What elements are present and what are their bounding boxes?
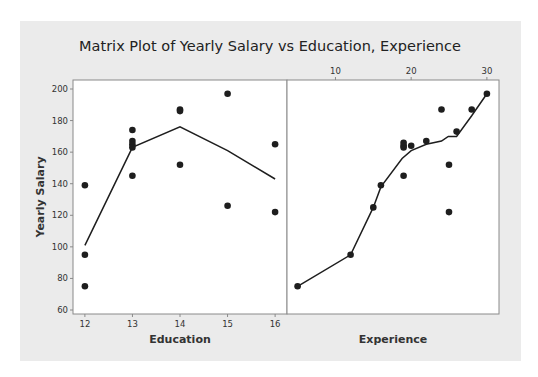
x-tick-label: 14 — [175, 319, 186, 329]
data-point — [82, 182, 89, 189]
data-point — [408, 143, 415, 150]
x-tick-label: 15 — [222, 319, 233, 329]
data-point — [129, 173, 136, 180]
data-point — [224, 203, 231, 210]
data-point — [177, 162, 184, 169]
chart-title: Matrix Plot of Yearly Salary vs Educatio… — [79, 38, 461, 54]
y-tick-label: 140 — [52, 179, 68, 189]
data-point — [446, 209, 453, 216]
x-tick-label: 30 — [481, 66, 492, 76]
y-tick-label: 80 — [57, 273, 68, 283]
plot-area-education — [73, 80, 287, 314]
y-axis-label: Yearly Salary — [34, 156, 47, 238]
x-axis-label-experience: Experience — [359, 333, 427, 346]
x-tick-label: 16 — [270, 319, 281, 329]
data-point — [468, 106, 475, 113]
data-point — [294, 283, 301, 290]
x-tick-label: 12 — [79, 319, 90, 329]
data-point — [423, 138, 430, 145]
data-point — [438, 106, 445, 113]
x-tick-label: 20 — [406, 66, 417, 76]
x-tick-label: 13 — [127, 319, 138, 329]
data-point — [446, 162, 453, 169]
data-point — [453, 128, 460, 135]
data-point — [177, 108, 184, 115]
x-tick-label: 10 — [330, 66, 341, 76]
data-point — [82, 252, 89, 259]
data-point — [82, 283, 89, 290]
data-point — [484, 90, 491, 97]
y-tick-label: 120 — [52, 210, 68, 220]
y-tick-label: 200 — [52, 84, 68, 94]
data-point — [370, 204, 377, 211]
data-point — [347, 252, 354, 259]
data-point — [272, 141, 279, 148]
panel-experience: 102030 Experience — [287, 66, 499, 346]
y-tick-label: 160 — [52, 147, 68, 157]
y-tick-label: 100 — [52, 242, 68, 252]
x-axis-label-education: Education — [149, 333, 211, 346]
data-point — [129, 144, 136, 151]
matrix-plot-chart: Matrix Plot of Yearly Salary vs Educatio… — [0, 0, 538, 377]
data-point — [400, 173, 407, 180]
data-point — [378, 182, 385, 189]
panel-education: 6080100120140160180200 1213141516 Educat… — [52, 80, 287, 346]
y-tick-label: 60 — [57, 305, 68, 315]
data-point — [272, 209, 279, 216]
data-point — [129, 127, 136, 134]
plot-area-experience — [287, 80, 499, 314]
y-tick-label: 180 — [52, 116, 68, 126]
data-point — [400, 139, 407, 146]
data-point — [224, 90, 231, 97]
